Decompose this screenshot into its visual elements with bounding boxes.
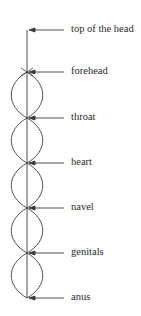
arrow-navel-icon [29, 206, 64, 210]
arrow-forehead-icon [29, 70, 64, 74]
label-top-of-head: top of the head [71, 23, 134, 35]
label-forehead: forehead [71, 65, 108, 77]
label-navel: navel [71, 201, 94, 213]
arrows [29, 28, 64, 300]
arrow-throat-icon [29, 116, 64, 120]
label-throat: throat [71, 111, 96, 123]
label-anus: anus [71, 291, 90, 303]
label-heart: heart [71, 156, 92, 168]
arrow-heart-icon [29, 161, 64, 165]
arrow-anus-icon [29, 296, 64, 300]
arrow-top-of-head-icon [29, 28, 64, 32]
arrow-genitals-icon [29, 251, 64, 255]
label-genitals: genitals [71, 246, 104, 258]
